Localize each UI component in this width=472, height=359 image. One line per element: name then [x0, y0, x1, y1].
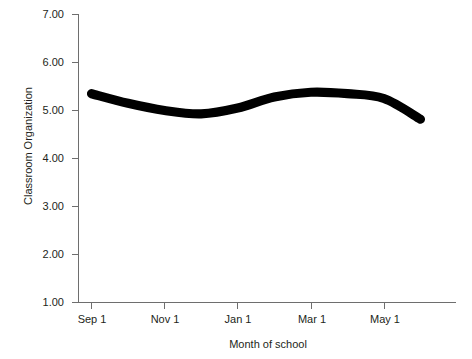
data-series-line: [92, 92, 421, 119]
x-tick-label-jan1: Jan 1: [208, 313, 268, 325]
x-axis-title: Month of school: [78, 338, 458, 350]
x-tick-label-sep1: Sep 1: [62, 313, 122, 325]
y-axis-title: Classroom Organization: [22, 66, 34, 226]
y-tick-label-7: 7.00: [18, 8, 64, 20]
x-tick-label-mar1: Mar 1: [282, 313, 342, 325]
x-tick-label-may1: May 1: [355, 313, 415, 325]
y-tick-label-1: 1.00: [18, 296, 64, 308]
chart-container: 7.00 6.00 5.00 4.00 3.00 2.00 1.00 Sep 1…: [0, 0, 472, 359]
x-tick-group: [92, 302, 385, 309]
y-tick-group: [72, 15, 78, 303]
x-tick-label-nov1: Nov 1: [135, 313, 195, 325]
y-tick-label-2: 2.00: [18, 248, 64, 260]
plot-area: [0, 0, 472, 359]
